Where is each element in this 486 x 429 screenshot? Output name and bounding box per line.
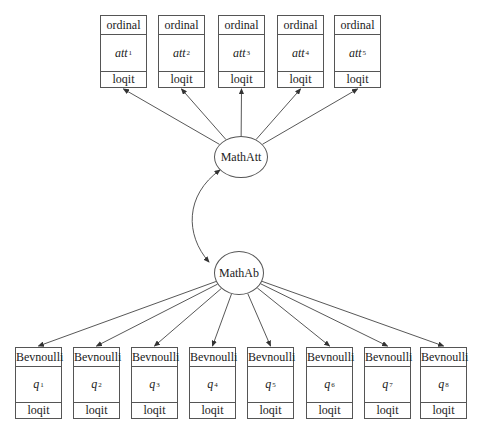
distribution-label: Bevnoulli bbox=[365, 348, 410, 367]
variable-label: q3 bbox=[132, 367, 177, 402]
indicator-att-3[interactable]: ordinal att3 loqit bbox=[218, 15, 265, 88]
variable-label: att4 bbox=[278, 35, 323, 71]
distribution-label: Bevnoulli bbox=[74, 348, 119, 367]
indicator-att-2[interactable]: ordinal att2 loqit bbox=[158, 15, 205, 88]
covariance-arrow bbox=[192, 170, 220, 262]
variable-label: q4 bbox=[190, 367, 235, 402]
link-function-label: loqit bbox=[278, 71, 323, 87]
distribution-label: ordinal bbox=[159, 16, 204, 35]
loading-arrow bbox=[261, 284, 388, 346]
distribution-label: Bevnoulli bbox=[307, 348, 352, 367]
variable-label: q5 bbox=[248, 367, 293, 402]
distribution-label: Bevnoulli bbox=[190, 348, 235, 367]
variable-label: q7 bbox=[365, 367, 410, 402]
latent-label: MathAb bbox=[219, 266, 259, 281]
variable-label: att2 bbox=[159, 35, 204, 71]
indicator-q-1[interactable]: Bevnoulli q1 loqit bbox=[15, 347, 62, 419]
loading-arrow bbox=[182, 89, 226, 140]
distribution-label: Bevnoulli bbox=[248, 348, 293, 367]
link-function-label: loqit bbox=[159, 71, 204, 87]
link-function-label: loqit bbox=[132, 402, 177, 418]
latent-mathatt[interactable]: MathAtt bbox=[214, 136, 268, 178]
distribution-label: ordinal bbox=[335, 16, 380, 35]
distribution-label: ordinal bbox=[101, 16, 146, 35]
distribution-label: ordinal bbox=[278, 16, 323, 35]
variable-label: att5 bbox=[335, 35, 380, 71]
loading-arrow bbox=[124, 89, 220, 144]
loading-arrow bbox=[155, 289, 222, 346]
indicator-q-8[interactable]: Bevnoulli q8 loqit bbox=[420, 347, 467, 419]
link-function-label: loqit bbox=[365, 402, 410, 418]
variable-label: q8 bbox=[421, 367, 466, 402]
indicator-q-5[interactable]: Bevnoulli q5 loqit bbox=[247, 347, 294, 419]
loading-arrow bbox=[213, 294, 232, 346]
distribution-label: Bevnoulli bbox=[421, 348, 466, 367]
loading-arrow bbox=[256, 89, 300, 140]
loading-arrow bbox=[257, 288, 329, 346]
indicator-q-3[interactable]: Bevnoulli q3 loqit bbox=[131, 347, 178, 419]
distribution-label: Bevnoulli bbox=[132, 348, 177, 367]
indicator-q-4[interactable]: Bevnoulli q4 loqit bbox=[189, 347, 236, 419]
loading-arrow bbox=[39, 282, 216, 346]
loading-arrow bbox=[248, 294, 271, 346]
latent-mathab[interactable]: MathAb bbox=[214, 251, 264, 295]
indicator-att-5[interactable]: ordinal att5 loqit bbox=[334, 15, 381, 88]
indicator-att-1[interactable]: ordinal att1 loqit bbox=[100, 15, 147, 88]
indicator-q-2[interactable]: Bevnoulli q2 loqit bbox=[73, 347, 120, 419]
loading-arrow bbox=[97, 284, 218, 346]
latent-label: MathAtt bbox=[221, 150, 262, 165]
variable-label: q1 bbox=[16, 367, 61, 402]
distribution-label: ordinal bbox=[219, 16, 264, 35]
variable-label: att1 bbox=[101, 35, 146, 71]
indicator-q-7[interactable]: Bevnoulli q7 loqit bbox=[364, 347, 411, 419]
link-function-label: loqit bbox=[421, 402, 466, 418]
link-function-label: loqit bbox=[335, 71, 380, 87]
link-function-label: loqit bbox=[190, 402, 235, 418]
link-function-label: loqit bbox=[74, 402, 119, 418]
indicator-q-6[interactable]: Bevnoulli q6 loqit bbox=[306, 347, 353, 419]
variable-label: att3 bbox=[219, 35, 264, 71]
link-function-label: loqit bbox=[248, 402, 293, 418]
link-function-label: loqit bbox=[219, 71, 264, 87]
variable-label: q6 bbox=[307, 367, 352, 402]
link-function-label: loqit bbox=[307, 402, 352, 418]
distribution-label: Bevnoulli bbox=[16, 348, 61, 367]
link-function-label: loqit bbox=[16, 402, 61, 418]
indicator-att-4[interactable]: ordinal att4 loqit bbox=[277, 15, 324, 88]
variable-label: q2 bbox=[74, 367, 119, 402]
link-function-label: loqit bbox=[101, 71, 146, 87]
